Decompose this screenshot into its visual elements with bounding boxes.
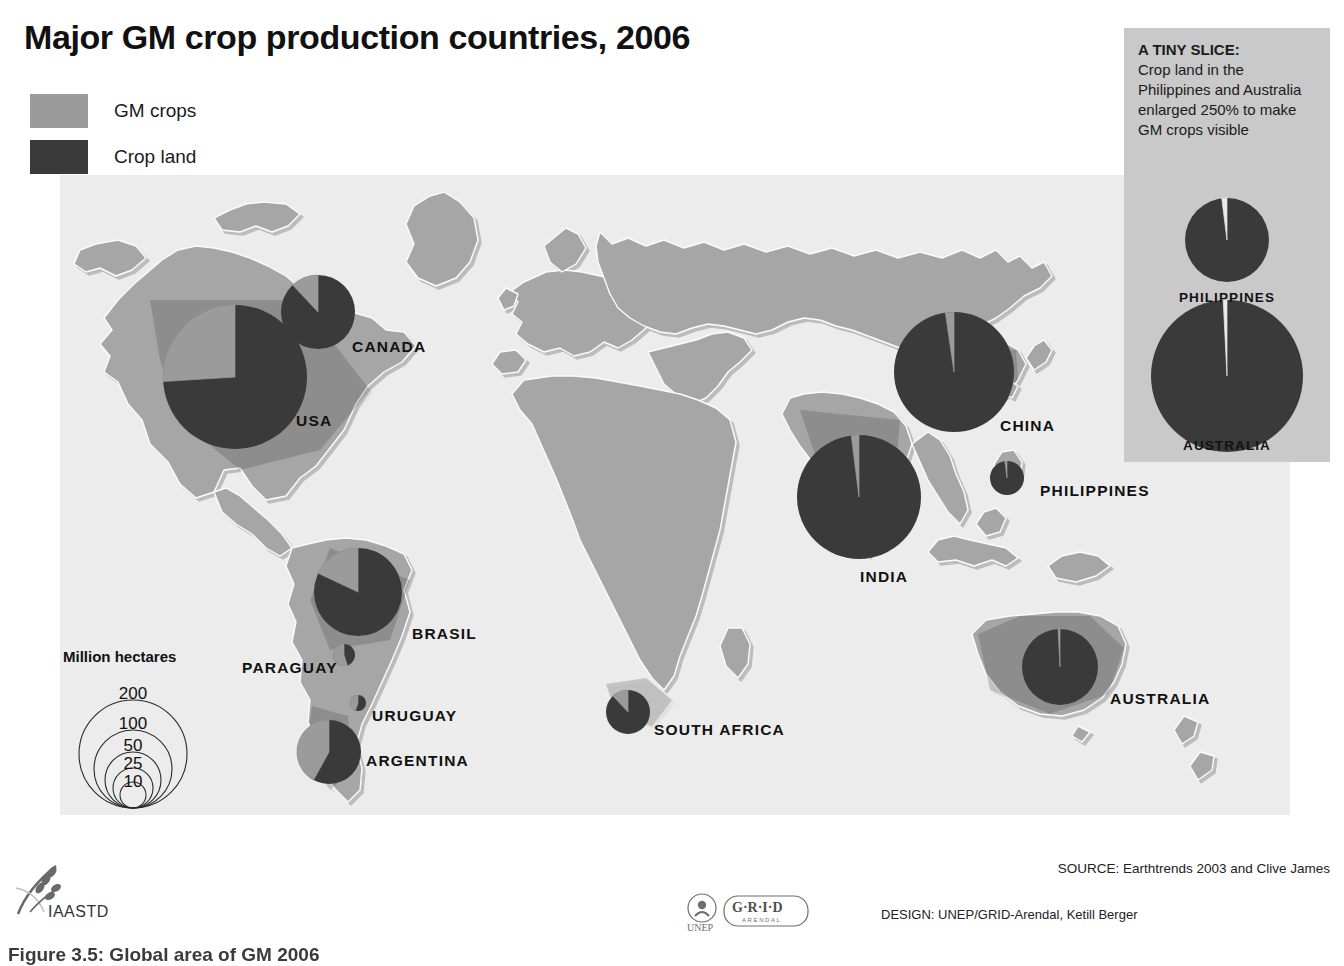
size-legend-value-50: 50 [93,736,173,756]
size-legend: Million hectares 200 100 50 25 10 [57,648,237,828]
legend-color-key: GM crops Crop land [30,88,196,180]
country-label-usa: USA [296,412,332,430]
size-legend-value-25: 25 [93,754,173,774]
size-legend-title: Million hectares [63,648,176,665]
inset-heading: A TINY SLICE: [1138,41,1240,58]
source-credit: SOURCE: Earthtrends 2003 and Clive James [1058,861,1330,876]
legend-label-crop-land: Crop land [114,146,196,168]
pie-inset-australia [1151,300,1303,452]
unep-logo-text: UNEP [687,922,714,933]
pie-uruguay [350,695,366,711]
iaastd-logo-text: IAASTD [48,903,109,921]
country-label-uruguay: URUGUAY [372,707,457,725]
pie-inset-philippines [1185,198,1269,282]
grid-logo-subtext: ARENDAL [742,917,782,923]
country-label-canada: CANADA [352,338,426,356]
legend-swatch-gm-crops [30,94,88,128]
grid-logo-text: G·R·I·D [732,900,783,915]
country-label-south-africa: SOUTH AFRICA [654,721,785,739]
legend-swatch-crop-land [30,140,88,174]
country-label-china: CHINA [1000,417,1055,435]
page-title: Major GM crop production countries, 2006 [24,18,690,57]
country-label-australia: AUSTRALIA [1110,690,1210,708]
inset-pie-charts [1124,178,1330,508]
pie-south-africa [606,690,650,734]
country-label-brasil: BRASIL [412,625,477,643]
inset-body-text: Crop land in the Philippines and Austral… [1138,61,1301,138]
legend-item-gm-crops: GM crops [30,88,196,134]
pie-canada [281,275,355,349]
design-credit: DESIGN: UNEP/GRID-Arendal, Ketill Berger [881,907,1137,922]
inset-label-australia: AUSTRALIA [1124,438,1330,453]
size-legend-value-100: 100 [93,714,173,734]
size-legend-value-10: 10 [93,772,173,792]
country-label-india: INDIA [860,568,908,586]
pie-brasil [314,548,402,636]
country-label-paraguay: PARAGUAY [242,659,338,677]
pie-argentina [297,720,361,784]
legend-item-crop-land: Crop land [30,134,196,180]
size-legend-value-200: 200 [93,684,173,704]
inset-heading-block: A TINY SLICE: Crop land in the Philippin… [1138,40,1318,140]
pie-australia [1022,629,1098,705]
clipped-bottom-caption: Figure 3.5: Global area of GM 2006 [8,944,320,966]
inset-label-philippines: PHILIPPINES [1124,290,1330,305]
inset-panel: A TINY SLICE: Crop land in the Philippin… [1124,28,1330,462]
unep-grid-arendal-logo: UNEP G·R·I·D ARENDAL [680,890,850,936]
legend-label-gm-crops: GM crops [114,100,196,122]
country-label-argentina: ARGENTINA [366,752,469,770]
pie-india [797,435,921,559]
pie-china [894,312,1014,432]
pie-philippines [990,461,1024,495]
